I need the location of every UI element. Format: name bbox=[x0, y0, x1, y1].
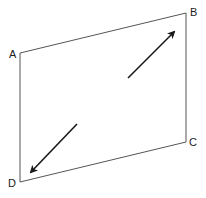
arrow-down-left bbox=[31, 124, 77, 172]
vertex-label-b: B bbox=[190, 7, 197, 18]
arrow-up-right bbox=[128, 32, 174, 78]
vertex-label-c: C bbox=[189, 137, 197, 148]
vertex-label-d: D bbox=[8, 178, 16, 189]
quadrilateral-diagram bbox=[0, 0, 206, 198]
vertex-label-a: A bbox=[9, 49, 16, 60]
